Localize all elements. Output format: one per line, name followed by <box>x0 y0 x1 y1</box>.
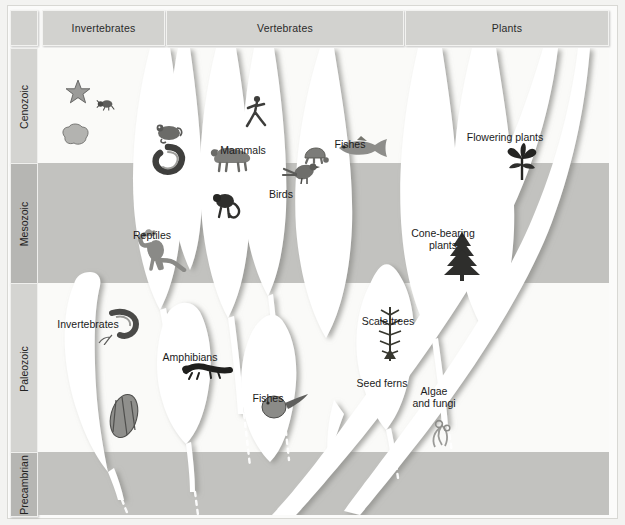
column-header-plants: Plants <box>405 10 609 46</box>
era-tab-paleozoic-label: Paleozoic <box>18 346 30 392</box>
era-tab-paleozoic: Paleozoic <box>10 283 38 454</box>
group-label-mammals: Mammals <box>220 145 266 157</box>
era-tab-precambrian-label: Precambrian <box>18 455 30 515</box>
era-tab-cenozoic-label: Cenozoic <box>18 85 30 129</box>
group-label-cone-bearing-plants: Cone-bearing plants <box>406 228 480 251</box>
branch-invertebrates-stem <box>108 468 124 500</box>
monkey-icon <box>209 190 247 222</box>
branch-fishes-lower <box>241 315 296 462</box>
branch-invertebrates <box>65 272 108 472</box>
frog-icon <box>153 119 185 145</box>
column-header-vertebrates-label: Vertebrates <box>257 22 313 34</box>
group-label-scale-trees: Scale trees <box>362 316 415 328</box>
turtle-icon <box>298 144 330 168</box>
trilobite-icon <box>102 390 146 442</box>
tree-plot-area: Invertebrates Reptiles Amphibians Mammal… <box>38 48 609 515</box>
starfish-icon <box>65 79 91 105</box>
group-label-invertebrates-upper: Invertebrates <box>57 319 118 331</box>
group-label-birds: Birds <box>269 189 293 201</box>
insect-icon <box>95 96 117 112</box>
column-header-invertebrates: Invertebrates <box>42 10 165 46</box>
column-header-invertebrates-label: Invertebrates <box>72 22 136 34</box>
era-tab-precambrian: Precambrian <box>10 452 38 517</box>
era-tab-cenozoic: Cenozoic <box>10 48 38 165</box>
phylogeny-branches <box>38 48 609 515</box>
lycopod-scale-tree-icon <box>375 305 405 363</box>
group-label-flowering-plants: Flowering plants <box>467 132 543 144</box>
algae-icon <box>425 419 459 449</box>
group-label-reptiles: Reptiles <box>133 230 171 242</box>
sponge-icon <box>58 121 92 147</box>
evolution-tree-figure: Invertebrates Vertebrates Plants Cenozoi… <box>0 0 625 525</box>
group-label-fishes-lower: Fishes <box>253 393 284 405</box>
group-label-seed-ferns: Seed ferns <box>356 378 408 390</box>
column-header-vertebrates: Vertebrates <box>166 10 404 46</box>
branch-amphibians-stem <box>186 442 195 492</box>
human-runner-icon <box>244 95 268 129</box>
group-label-fishes-upper: Fishes <box>335 139 366 151</box>
column-header-plants-label: Plants <box>492 22 522 34</box>
header-corner-stub <box>10 10 38 46</box>
era-tab-mesozoic: Mesozoic <box>10 163 38 285</box>
branch-fishes-upper <box>295 48 352 338</box>
era-tab-mesozoic-label: Mesozoic <box>18 202 30 246</box>
iris-flowering-plant-icon <box>499 140 545 184</box>
group-label-amphibians: Amphibians <box>163 352 218 364</box>
snake-icon <box>148 143 188 177</box>
group-label-algae-and-fungi: Algae and fungi <box>411 386 457 409</box>
